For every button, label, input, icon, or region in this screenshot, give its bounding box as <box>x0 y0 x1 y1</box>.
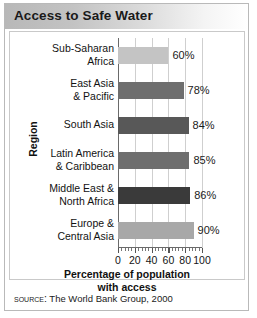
y-axis-tick-label-line: & Caribbean <box>22 160 114 173</box>
plot-area <box>118 38 202 248</box>
y-axis-tick-label-line: North Africa <box>22 195 114 208</box>
bar <box>118 222 194 239</box>
x-tick-minor <box>175 248 176 251</box>
x-tick-minor <box>178 248 179 251</box>
x-tick-minor <box>125 248 126 251</box>
x-tick-minor <box>155 248 156 251</box>
x-tick-major-40 <box>152 248 153 253</box>
bar <box>118 187 190 204</box>
x-tick-minor <box>138 248 139 251</box>
y-axis-tick-label-line: Sub-Saharan <box>22 42 114 55</box>
x-tick-minor <box>128 248 129 251</box>
source-text: The World Bank Group, 2000 <box>49 293 172 304</box>
bar-value-label: 78% <box>188 82 210 99</box>
y-axis-tick-label: Middle East &North Africa <box>22 182 114 207</box>
x-tick-minor <box>189 248 190 251</box>
x-tick-major-0 <box>118 248 119 253</box>
x-tick-minor <box>182 248 183 251</box>
bar-value-label: 90% <box>198 222 220 239</box>
x-tick-minor <box>165 248 166 251</box>
y-axis-tick-labels: Sub-SaharanAfricaEast Asia& PacificSouth… <box>18 38 114 248</box>
gridline-40 <box>152 38 153 248</box>
y-axis-tick-label-line: Middle East & <box>22 182 114 195</box>
bar-value-label: 85% <box>193 152 215 169</box>
y-axis-tick-label-line: East Asia <box>22 77 114 90</box>
y-axis-tick-label: Europe &Central Asia <box>22 217 114 242</box>
y-axis-tick-label-line: & Pacific <box>22 90 114 103</box>
gridline-60 <box>168 38 169 248</box>
y-axis-tick-label-line: Europe & <box>22 217 114 230</box>
gridline-80 <box>185 38 186 248</box>
chart-title-bar: Access to Safe Water <box>5 4 248 29</box>
x-tick-major-80 <box>185 248 186 253</box>
chart-figure: Access to Safe Water Region Sub-SaharanA… <box>4 3 249 311</box>
x-tick-minor <box>199 248 200 251</box>
bar-value-label: 84% <box>193 117 215 134</box>
x-tick-minor <box>142 248 143 251</box>
x-tick-minor <box>145 248 146 251</box>
y-axis-tick-label: Sub-SaharanAfrica <box>22 42 114 67</box>
bar <box>118 152 189 169</box>
source-note: Source: The World Bank Group, 2000 <box>14 292 173 304</box>
source-label: Source: <box>14 292 47 304</box>
x-axis-title: Percentage of population with access <box>10 268 244 293</box>
x-tick-major-20 <box>135 248 136 253</box>
y-axis-tick-label-line: Central Asia <box>22 230 114 243</box>
x-axis-tick-labels: 020406080100 <box>98 254 228 268</box>
y-axis-tick-label-line: Latin America <box>22 147 114 160</box>
x-tick-minor <box>172 248 173 251</box>
bar <box>118 47 168 64</box>
y-axis-tick-label-line: Africa <box>22 55 114 68</box>
plot-frame <box>118 38 202 248</box>
chart-panel: Region Sub-SaharanAfricaEast Asia& Pacif… <box>9 31 245 280</box>
x-tick-minor <box>148 248 149 251</box>
gridline-100 <box>202 38 203 248</box>
x-tick-major-100 <box>202 248 203 253</box>
page-title: Access to Safe Water <box>14 8 153 23</box>
bar <box>118 82 184 99</box>
x-tick-minor <box>131 248 132 251</box>
y-axis-tick-label: Latin America& Caribbean <box>22 147 114 172</box>
x-tick-minor <box>158 248 159 251</box>
y-axis-tick-label: East Asia& Pacific <box>22 77 114 102</box>
bar-value-label: 60% <box>172 47 194 64</box>
y-axis-tick-label-line: South Asia <box>22 118 114 131</box>
x-tick-minor <box>192 248 193 251</box>
x-axis-title-line1: Percentage of population <box>10 268 244 281</box>
gridline-20 <box>135 38 136 248</box>
x-tick-label-100: 100 <box>187 254 217 266</box>
x-tick-minor <box>121 248 122 251</box>
x-tick-major-60 <box>168 248 169 253</box>
bar <box>118 117 189 134</box>
bar-value-label: 86% <box>194 187 216 204</box>
y-axis-tick-label: South Asia <box>22 118 114 131</box>
x-tick-minor <box>195 248 196 251</box>
x-tick-minor <box>162 248 163 251</box>
